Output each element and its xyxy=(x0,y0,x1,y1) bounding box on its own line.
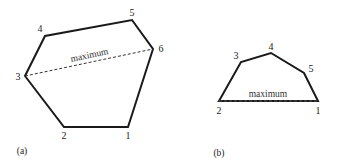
vertex-label-a-1: 1 xyxy=(126,130,131,141)
vertex-label-a-6: 6 xyxy=(159,43,164,54)
vertex-label-a-5: 5 xyxy=(130,7,135,18)
vertex-label-b-3: 3 xyxy=(234,50,239,61)
polygon-a xyxy=(25,20,153,127)
vertex-label-a-2: 2 xyxy=(62,130,67,141)
figure-a: maximum 1 2 3 4 5 6 (a) xyxy=(16,7,164,157)
caption-a: (a) xyxy=(17,146,28,157)
figure-b: maximum 1 2 3 4 5 (b) xyxy=(213,41,320,159)
vertex-label-b-1: 1 xyxy=(316,105,321,116)
vertex-label-b-5: 5 xyxy=(309,63,314,74)
maximum-label-b: maximum xyxy=(249,89,288,99)
maximum-label-a: maximum xyxy=(69,46,109,64)
vertex-label-b-2: 2 xyxy=(217,105,222,116)
vertex-label-b-4: 4 xyxy=(269,41,274,52)
vertex-label-a-4: 4 xyxy=(38,23,43,34)
caption-b: (b) xyxy=(213,148,224,159)
vertex-label-a-3: 3 xyxy=(16,71,21,82)
convex-polygon-diagram: maximum 1 2 3 4 5 6 (a) maximum 1 2 3 4 … xyxy=(0,0,337,168)
